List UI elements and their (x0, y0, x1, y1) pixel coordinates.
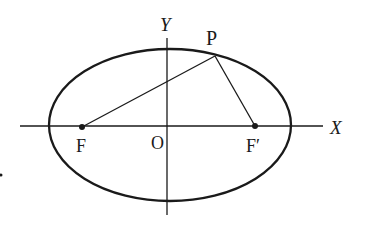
focus-left-point (79, 124, 85, 130)
stray-dot (0, 174, 3, 177)
segment-pf (82, 56, 215, 127)
x-axis-label: X (329, 117, 343, 138)
focus-left-label: F (76, 136, 86, 156)
y-axis-label: Y (160, 14, 173, 35)
focus-right-point (252, 123, 258, 129)
focus-right-label: F′ (246, 136, 260, 156)
point-p-label: P (206, 27, 217, 49)
ellipse-diagram: X Y O P F F′ (0, 0, 368, 233)
origin-label: O (151, 133, 164, 153)
